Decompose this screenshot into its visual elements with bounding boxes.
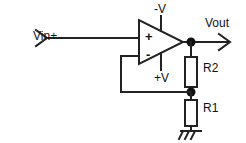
label-supply-negative: -V xyxy=(154,3,166,15)
resistor-r2-body xyxy=(185,57,197,87)
label-supply-positive: +V xyxy=(154,72,169,84)
opamp-noninverting-terminal-symbol: + xyxy=(145,30,153,43)
ground-icon xyxy=(179,131,201,139)
resistor-r1-body xyxy=(185,100,197,126)
label-input: Vin+ xyxy=(33,30,57,42)
label-resistor-r1: R1 xyxy=(203,102,218,114)
label-output: Vout xyxy=(205,17,229,29)
circuit-diagram-canvas: Vin+ Vout -V +V R2 R1 + - xyxy=(0,0,246,143)
label-resistor-r2: R2 xyxy=(203,62,218,74)
opamp-inverting-terminal-symbol: - xyxy=(146,48,150,61)
